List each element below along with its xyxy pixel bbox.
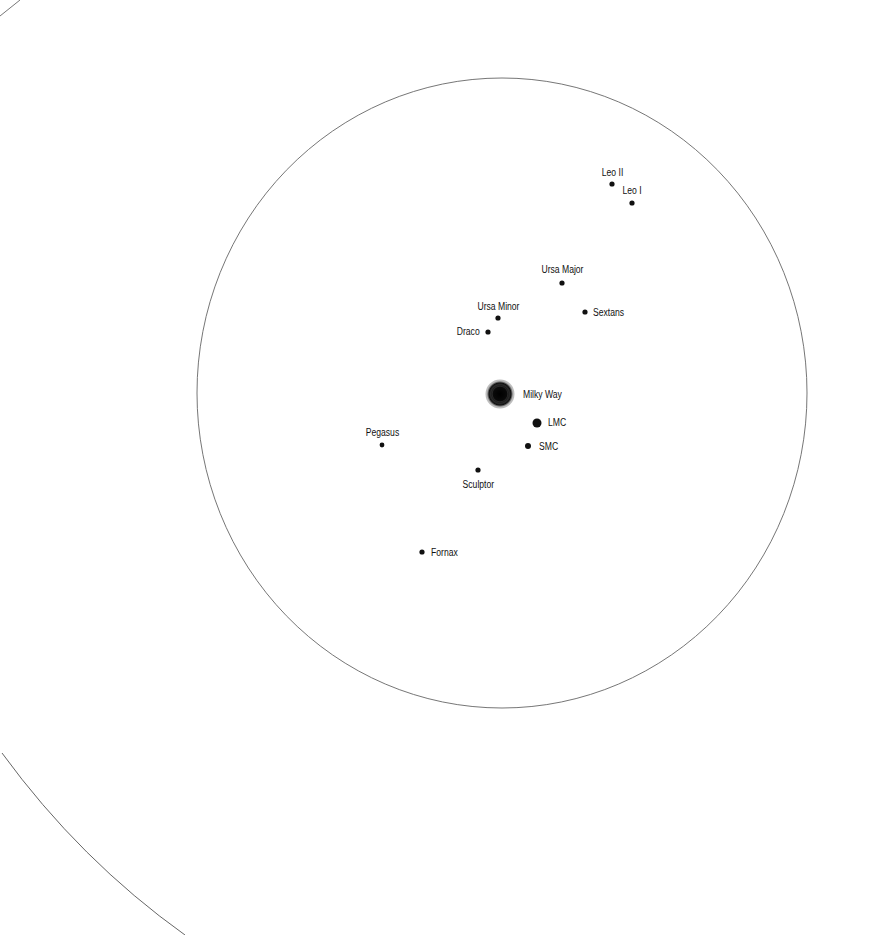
lmc-label: LMC [548,417,566,429]
draco-label: Draco [457,326,480,338]
outer-arc-lower-left [2,753,185,935]
pegasus-label: Pegasus [365,427,398,439]
galaxy-map [0,0,896,935]
fornax-marker [419,549,424,554]
ursa-minor-marker [495,315,500,320]
ursa-minor-label: Ursa Minor [477,301,519,313]
galaxy-markers [380,181,635,554]
draco-marker [485,329,490,334]
sculptor-marker [475,467,480,472]
smc-marker [525,443,531,449]
sculptor-label: Sculptor [462,479,494,491]
leo-ii-marker [609,181,614,186]
sextans-label: Sextans [593,307,624,319]
milky-way-label: Milky Way [523,389,562,401]
sextans-marker [582,309,587,314]
milky-way-marker [487,381,513,407]
leo-i-label: Leo I [623,185,642,197]
fornax-label: Fornax [431,547,458,559]
leo-ii-label: Leo II [601,167,623,179]
outer-arc-upper-left [0,0,20,16]
pegasus-marker [380,443,385,448]
leo-i-marker [629,200,634,205]
lmc-marker [533,419,542,428]
ursa-major-label: Ursa Major [541,264,583,276]
smc-label: SMC [539,441,558,453]
ursa-major-marker [559,280,564,285]
